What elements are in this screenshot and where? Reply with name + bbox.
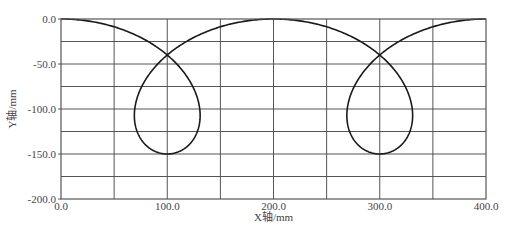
x-tick-label: 100.0	[155, 200, 180, 212]
x-axis-label: X轴/mm	[254, 210, 294, 223]
y-axis-ticks: 0.0-50.0-100.0-150.0-200.0	[28, 13, 61, 205]
y-tick-label: -200.0	[28, 193, 57, 205]
chart: 0.0-50.0-100.0-150.0-200.0 0.0100.0200.0…	[0, 0, 513, 233]
y-tick-label: -150.0	[28, 148, 57, 160]
grid-lines	[61, 19, 486, 199]
y-tick-label: -100.0	[28, 103, 57, 115]
y-tick-label: -50.0	[33, 58, 56, 70]
y-axis-label: Y轴/mm	[5, 89, 18, 129]
y-tick-label: 0.0	[42, 13, 56, 25]
x-tick-label: 300.0	[367, 200, 392, 212]
x-tick-label: 400.0	[474, 200, 499, 212]
x-tick-label: 0.0	[54, 200, 68, 212]
